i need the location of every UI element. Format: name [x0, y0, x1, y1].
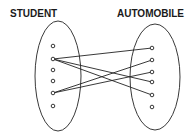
mapping-lines	[53, 48, 152, 95]
automobile-element	[150, 70, 154, 74]
student-element	[51, 68, 55, 72]
student-elements	[51, 44, 55, 108]
mapping-line	[53, 59, 152, 82]
student-element	[51, 57, 55, 61]
student-element	[51, 44, 55, 48]
automobile-element	[150, 58, 154, 62]
automobile-element	[150, 93, 154, 97]
mapping-diagram	[0, 0, 196, 140]
student-element	[51, 104, 55, 108]
student-set-ellipse	[35, 21, 81, 131]
mapping-line	[53, 60, 152, 93]
student-element	[51, 91, 55, 95]
automobile-set-ellipse	[130, 24, 180, 130]
student-element	[51, 79, 55, 83]
mapping-line	[53, 48, 152, 59]
automobile-elements	[150, 46, 154, 109]
automobile-element	[150, 105, 154, 109]
automobile-element	[150, 80, 154, 84]
automobile-element	[150, 46, 154, 50]
